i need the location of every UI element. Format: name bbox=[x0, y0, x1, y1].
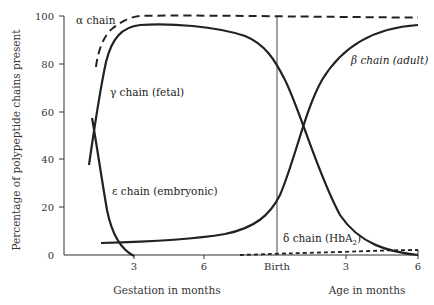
x-tick-gestation-3: 3 bbox=[131, 261, 137, 272]
y-tick-20: 20 bbox=[41, 202, 54, 213]
delta-chain-label: δ chain (HbA2) bbox=[283, 232, 361, 247]
delta-label-close: ) bbox=[357, 232, 361, 244]
beta-chain-label: β chain (adult) bbox=[350, 54, 428, 66]
x-tick-birth: Birth bbox=[264, 261, 290, 272]
x-axis-title-gestation: Gestation in months bbox=[113, 284, 220, 296]
x-tick-age-3: 3 bbox=[343, 261, 349, 272]
x-axis-title-age: Age in months bbox=[328, 284, 406, 296]
delta-label-main: δ chain (HbA bbox=[283, 232, 353, 244]
alpha-chain-label: α chain bbox=[76, 14, 116, 26]
hemoglobin-chain-chart: 100 80 60 40 20 0 3 6 Birth 3 6 Percenta… bbox=[0, 0, 434, 305]
y-tick-80: 80 bbox=[41, 59, 54, 70]
y-tick-60: 60 bbox=[41, 107, 54, 118]
x-tick-gestation-6: 6 bbox=[201, 261, 207, 272]
x-tick-age-6: 6 bbox=[415, 261, 421, 272]
y-axis-title: Percentage of polypeptide chains present bbox=[10, 29, 22, 251]
epsilon-chain-label: ε chain (embryonic) bbox=[112, 185, 218, 197]
y-tick-0: 0 bbox=[48, 250, 54, 261]
axes bbox=[59, 16, 418, 259]
gamma-chain-label: γ chain (fetal) bbox=[110, 86, 184, 98]
y-tick-100: 100 bbox=[35, 11, 54, 22]
y-tick-40: 40 bbox=[41, 154, 54, 165]
